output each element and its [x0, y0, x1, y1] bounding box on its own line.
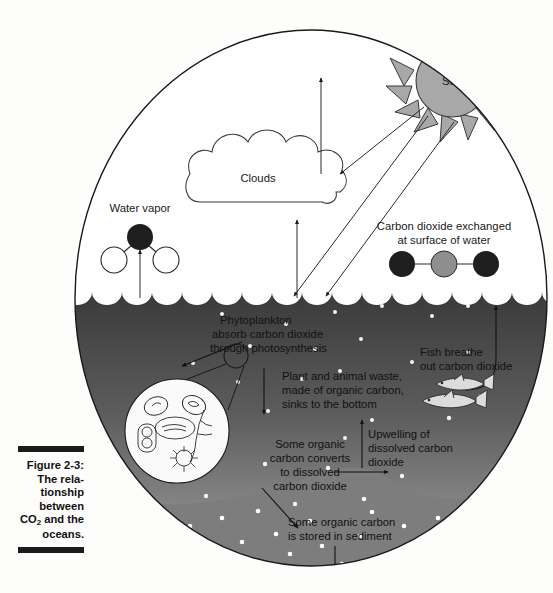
- co2-surface-label-line1: Carbon dioxide exchanged: [377, 220, 511, 232]
- caption-co2-subscript: 2: [37, 518, 41, 527]
- converts-line4: carbon dioxide: [273, 480, 346, 492]
- co2-oxygen-right-icon: [473, 251, 499, 277]
- converts-line2: carbon converts: [270, 452, 351, 464]
- upwelling-line1: Upwelling of: [368, 428, 430, 440]
- oxygen-atom-icon: [127, 224, 153, 250]
- hydrogen-atom-left-icon: [101, 247, 127, 273]
- co2-oxygen-left-icon: [389, 251, 415, 277]
- upwelling-line2: dissolved carbon: [368, 442, 453, 454]
- phytoplankton-line1: Phytoplankton: [220, 314, 292, 326]
- co2-carbon-icon: [431, 251, 457, 277]
- sediment-line2: is stored in sediment: [288, 530, 392, 542]
- sun-disc: [416, 45, 488, 117]
- clouds-label: Clouds: [240, 172, 276, 184]
- converts-line3: to dissolved: [280, 466, 340, 478]
- scene-oval: Sun Clouds Water va: [62, 6, 553, 586]
- hydrogen-atom-right-icon: [153, 247, 179, 273]
- waste-line1: Plant and animal waste,: [282, 370, 402, 382]
- phytoplankton-line2: absorb carbon dioxide: [212, 328, 323, 340]
- sediment-line1: Some organic carbon: [288, 516, 395, 528]
- water-vapor-label: Water vapor: [109, 202, 170, 214]
- upwelling-line3: dioxide: [368, 456, 404, 468]
- co2-surface-label-line2: at surface of water: [398, 234, 491, 246]
- figure-page: Figure 2-3: The rela- tionship between C…: [0, 0, 553, 593]
- phytoplankton-magnified-circle: [125, 379, 229, 483]
- carbon-cycle-diagram: Sun Clouds Water va: [72, 6, 550, 586]
- waste-line3: sinks to the bottom: [282, 398, 377, 410]
- fish-line1: Fish breathe: [420, 346, 483, 358]
- waste-line2: made of organic carbon,: [282, 384, 404, 396]
- converts-line1: Some organic: [275, 438, 345, 450]
- caption-co2-prefix: CO: [20, 513, 37, 525]
- fish-line2: out carbon dioxide: [420, 360, 512, 372]
